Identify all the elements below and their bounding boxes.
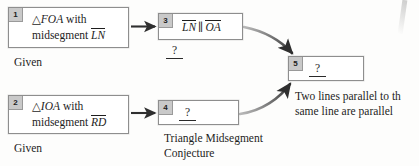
segment-oa-label: OA [205, 20, 220, 34]
proof-box-3-reason-blank[interactable]: ? [166, 44, 183, 59]
proof-box-4[interactable]: 4 ? [158, 100, 239, 125]
proof-box-5-caption-line2: same line are parallel [295, 104, 393, 118]
proof-box-4-caption-line2: Conjecture [164, 146, 214, 160]
proof-box-4-caption-line1: Triangle Midsegment [164, 131, 263, 145]
proof-box-1-number: 1 [9, 8, 23, 22]
proof-box-5-statement-blank[interactable]: ? [309, 62, 326, 77]
triangle-ioa-label: △IOA [32, 100, 60, 112]
proof-box-2-midsegment-word: midsegment [32, 116, 91, 128]
segment-ln-label: LN [91, 28, 105, 42]
proof-box-5[interactable]: 5 ? [288, 56, 364, 81]
arrow-4-to-5 [240, 84, 290, 114]
proof-box-2[interactable]: 2 △IOA with midsegment RD [8, 95, 129, 134]
proof-box-3-statement: LN∥OA [182, 20, 221, 35]
proof-box-2-number: 2 [9, 96, 23, 110]
flowchart-proof-diagram: 1 △FOA with midsegment LN Given 2 △IOA w… [0, 0, 419, 166]
arrow-3-to-5 [244, 27, 292, 53]
proof-box-1-caption: Given [14, 55, 42, 69]
proof-box-1-line2: midsegment LN [32, 28, 105, 43]
proof-box-1-midsegment-word: midsegment [32, 29, 91, 41]
proof-box-1-line1-tail: with [63, 13, 86, 25]
proof-box-4-statement-blank[interactable]: ? [179, 106, 196, 121]
proof-box-1[interactable]: 1 △FOA with midsegment LN [8, 7, 129, 48]
proof-box-4-number: 4 [159, 101, 173, 115]
triangle-foa-label: △FOA [32, 13, 63, 25]
proof-box-3-number: 3 [159, 14, 173, 28]
proof-box-5-caption-line1: Two lines parallel to th [295, 89, 401, 103]
proof-box-2-line1: △IOA with [32, 99, 83, 114]
proof-box-1-line1: △FOA with [32, 12, 87, 27]
proof-box-2-line1-tail: with [60, 100, 83, 112]
proof-box-2-line2: midsegment RD [32, 115, 106, 130]
proof-box-2-caption: Given [14, 141, 42, 155]
segment-rd-label: RD [91, 115, 106, 129]
proof-box-3[interactable]: 3 LN∥OA [158, 13, 243, 40]
proof-box-5-number: 5 [289, 57, 303, 71]
segment-ln-label-box3: LN [182, 20, 196, 34]
parallel-symbol-icon: ∥ [196, 21, 205, 33]
scan-artifact [398, 0, 408, 34]
